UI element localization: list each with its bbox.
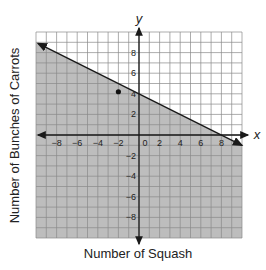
y-axis-letter: y [135, 11, 144, 26]
x-tick-label: 2 [157, 138, 162, 148]
x-tick-label: −2 [113, 138, 123, 148]
y-tick-label: 2 [131, 109, 136, 119]
x-tick-label: 6 [198, 138, 203, 148]
x-tick-label: −6 [72, 138, 82, 148]
y-tick-label: −2 [126, 151, 136, 161]
x-tick-label: −4 [93, 138, 103, 148]
x-tick-label: 0 [142, 138, 147, 148]
data-point [116, 89, 121, 94]
x-tick-label: 8 [219, 138, 224, 148]
x-axis-letter: x [253, 127, 261, 142]
y-tick-label: −6 [126, 192, 136, 202]
y-tick-label: 6 [131, 68, 136, 78]
y-tick-label: −8 [126, 212, 136, 222]
y-tick-label: 8 [131, 48, 136, 58]
x-axis-title: Number of Squash [0, 246, 266, 261]
x-tick-label: 4 [178, 138, 183, 148]
y-axis-title: Number of Bunches of Carrots [7, 26, 22, 246]
inequality-graph: xy−8−6−4−202468−8−6−4−22468 [0, 0, 266, 270]
y-tick-label: −4 [126, 171, 136, 181]
x-tick-label: −8 [51, 138, 61, 148]
y-tick-label: 4 [131, 89, 136, 99]
